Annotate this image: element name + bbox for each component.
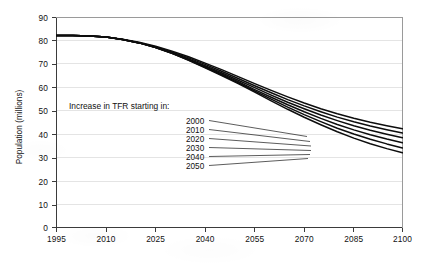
y-tick-label-30: 30 — [24, 153, 48, 163]
y-tick-label-20: 20 — [24, 177, 48, 187]
y-tick-label-60: 60 — [24, 83, 48, 93]
series-label-2030: 2030 — [186, 144, 204, 153]
x-tick-label-1995: 1995 — [37, 234, 77, 244]
annotation-heading: Increase in TFR starting in: — [69, 101, 169, 111]
y-tick-label-70: 70 — [24, 59, 48, 69]
y-axis-title: Population (millions) — [14, 67, 24, 187]
x-tick-label-2025: 2025 — [136, 234, 176, 244]
y-tick-label-10: 10 — [24, 200, 48, 210]
y-tick-label-90: 90 — [24, 13, 48, 23]
x-tick-label-2055: 2055 — [235, 234, 275, 244]
x-tick-label-2085: 2085 — [334, 234, 374, 244]
x-tick-marks — [57, 228, 403, 232]
population-projection-chart: Population (millions) 90 80 70 60 50 40 … — [0, 0, 430, 263]
y-tick-marks — [52, 18, 56, 228]
series-label-2010: 2010 — [186, 126, 204, 135]
x-tick-label-2040: 2040 — [185, 234, 225, 244]
chart-canvas — [0, 0, 430, 263]
series-label-2000: 2000 — [186, 117, 204, 126]
x-tick-label-2010: 2010 — [86, 234, 126, 244]
series-label-2050: 2050 — [186, 162, 204, 171]
y-tick-label-80: 80 — [24, 36, 48, 46]
y-tick-label-50: 50 — [24, 106, 48, 116]
x-tick-label-2100: 2100 — [383, 234, 423, 244]
series-label-2040: 2040 — [186, 153, 204, 162]
series-label-2020: 2020 — [186, 135, 204, 144]
y-tick-label-40: 40 — [24, 130, 48, 140]
x-tick-label-2070: 2070 — [284, 234, 324, 244]
plot-background — [56, 17, 403, 228]
y-tick-label-0: 0 — [24, 223, 48, 233]
